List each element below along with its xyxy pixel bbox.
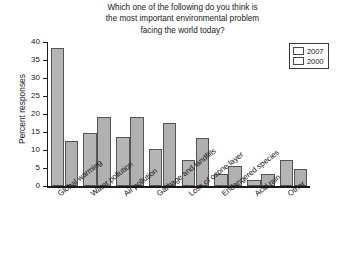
- y-tick: [43, 186, 47, 187]
- y-tick-label: 10: [24, 145, 40, 154]
- y-tick: [43, 150, 47, 151]
- y-axis-line: [47, 42, 48, 186]
- bar: [51, 48, 65, 186]
- y-tick: [43, 96, 47, 97]
- y-tick: [43, 168, 47, 169]
- bar: [280, 160, 294, 186]
- legend-swatch-2000: [293, 57, 304, 65]
- legend-label-2000: 2000: [307, 57, 324, 66]
- y-tick-label: 5: [24, 163, 40, 172]
- legend-item-2000: 2000: [293, 56, 324, 66]
- y-tick-label: 20: [24, 109, 40, 118]
- y-tick: [43, 42, 47, 43]
- y-tick: [43, 60, 47, 61]
- chart-legend: 2007 2000: [289, 43, 329, 69]
- y-tick-label: 0: [24, 181, 40, 190]
- y-tick: [43, 114, 47, 115]
- bar-chart: Which one of the following do you think …: [0, 0, 361, 274]
- y-tick: [43, 132, 47, 133]
- legend-swatch-2007: [293, 47, 304, 55]
- legend-label-2007: 2007: [307, 47, 324, 56]
- y-tick-label: 25: [24, 91, 40, 100]
- chart-title: Which one of the following do you think …: [55, 2, 310, 36]
- y-tick-label: 40: [24, 37, 40, 46]
- y-tick-label: 30: [24, 73, 40, 82]
- y-tick: [43, 78, 47, 79]
- y-tick-label: 15: [24, 127, 40, 136]
- y-tick-label: 35: [24, 55, 40, 64]
- legend-item-2007: 2007: [293, 46, 324, 56]
